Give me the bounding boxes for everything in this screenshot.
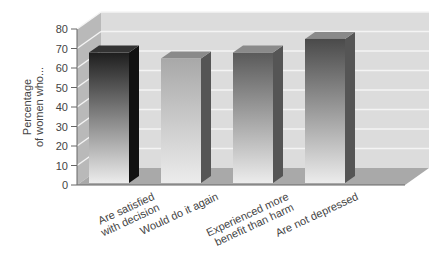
- bar-1-front: [89, 53, 129, 183]
- y-tick-label-0: 0: [62, 179, 68, 191]
- y-tick-label-60: 60: [56, 62, 68, 74]
- y-tick-label-30: 30: [56, 121, 68, 133]
- y-tick-label-10: 10: [56, 160, 68, 172]
- y-axis-label: Percentage of women who...: [21, 52, 45, 162]
- y-tick-label-20: 20: [56, 140, 68, 152]
- y-axis-label-line-1: Percentage: [21, 52, 33, 162]
- bar-3-front: [233, 53, 273, 183]
- bar-4-side: [345, 32, 355, 183]
- bar-3-side: [273, 46, 283, 183]
- bar-4-front: [305, 39, 345, 183]
- y-tick-label-40: 40: [56, 101, 68, 113]
- bar-1-side: [129, 46, 139, 183]
- bar-chart: 01020304050607080 Percentage of women wh…: [0, 0, 437, 260]
- y-tick-label-70: 70: [56, 43, 68, 55]
- y-axis-label-line-2: of women who...: [33, 52, 45, 162]
- bar-2-side: [201, 51, 211, 183]
- bar-2-front: [161, 58, 201, 183]
- y-tick-label-80: 80: [56, 23, 68, 35]
- y-tick-label-50: 50: [56, 82, 68, 94]
